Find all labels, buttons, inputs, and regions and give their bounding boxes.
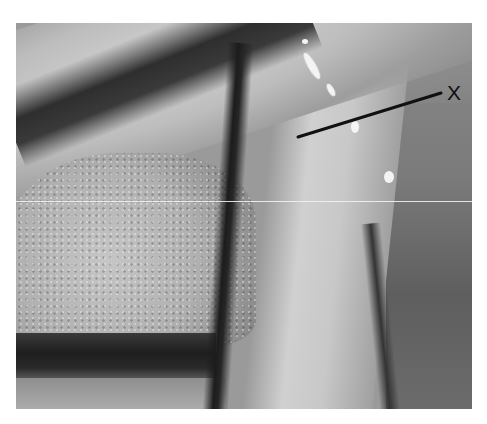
anatomical-photo <box>16 23 472 409</box>
bottom-crease-shadow <box>16 333 216 383</box>
specular-highlight <box>302 39 308 44</box>
specular-highlight <box>384 171 394 183</box>
annotation-label-x: X <box>447 82 461 103</box>
specular-highlight <box>351 121 359 133</box>
scan-artifact-line <box>16 201 472 202</box>
bottom-left-tissue <box>16 378 226 409</box>
